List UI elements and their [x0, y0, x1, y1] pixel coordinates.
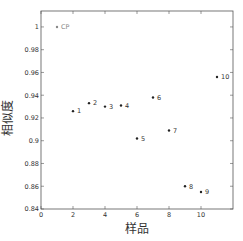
axes: 02468100.840.860.880.90.920.940.960.981 [25, 11, 233, 219]
data-point: 8 [184, 183, 193, 191]
point-label: 7 [173, 127, 177, 135]
y-tick-label: 0.94 [25, 92, 39, 100]
point-marker [184, 185, 186, 187]
point-label: 8 [189, 183, 193, 191]
point-label: 1 [77, 107, 81, 115]
data-point: 1 [72, 107, 81, 115]
y-tick-label: 0.96 [25, 69, 39, 77]
point-label: 10 [221, 73, 229, 81]
point-label: 4 [125, 102, 129, 110]
point-marker [72, 110, 74, 112]
data-points: CP12345678910 [56, 23, 229, 196]
y-tick-label: 0.84 [25, 205, 39, 213]
data-point: 10 [216, 73, 229, 81]
y-tick-label: 0.86 [25, 183, 39, 191]
data-point: CP [56, 23, 70, 31]
y-tick-label: 0.9 [29, 137, 39, 145]
point-marker [104, 105, 106, 107]
data-point: 3 [104, 103, 113, 111]
x-tick-label: 8 [167, 211, 171, 219]
y-tick-label: 1 [35, 23, 39, 31]
point-marker [120, 104, 122, 106]
x-tick-label: 0 [39, 211, 43, 219]
point-marker [136, 137, 138, 139]
data-point: 7 [168, 127, 177, 135]
x-tick-label: 6 [135, 211, 139, 219]
x-tick-label: 2 [71, 211, 75, 219]
x-axis-title: 样品 [125, 221, 149, 236]
data-point: 2 [88, 99, 97, 107]
point-label: CP [61, 23, 70, 31]
point-marker [56, 26, 58, 28]
y-tick-label: 0.98 [25, 46, 39, 54]
point-label: 5 [141, 135, 145, 143]
data-point: 5 [136, 135, 145, 143]
data-point: 4 [120, 102, 129, 110]
x-tick-label: 10 [197, 211, 205, 219]
data-point: 9 [200, 188, 209, 196]
point-marker [88, 102, 90, 104]
y-axis-title: 相似度 [0, 100, 15, 136]
point-marker [168, 129, 170, 131]
point-label: 2 [93, 99, 97, 107]
scatter-chart: 02468100.840.860.880.90.920.940.960.981 … [0, 0, 243, 241]
point-marker [200, 191, 202, 193]
point-marker [152, 96, 154, 98]
plot-frame [41, 11, 233, 209]
y-tick-label: 0.92 [25, 114, 39, 122]
y-tick-label: 0.88 [25, 160, 39, 168]
x-tick-label: 4 [103, 211, 107, 219]
point-label: 6 [157, 94, 161, 102]
data-point: 6 [152, 94, 161, 102]
point-label: 3 [109, 103, 113, 111]
point-marker [216, 76, 218, 78]
point-label: 9 [205, 188, 209, 196]
